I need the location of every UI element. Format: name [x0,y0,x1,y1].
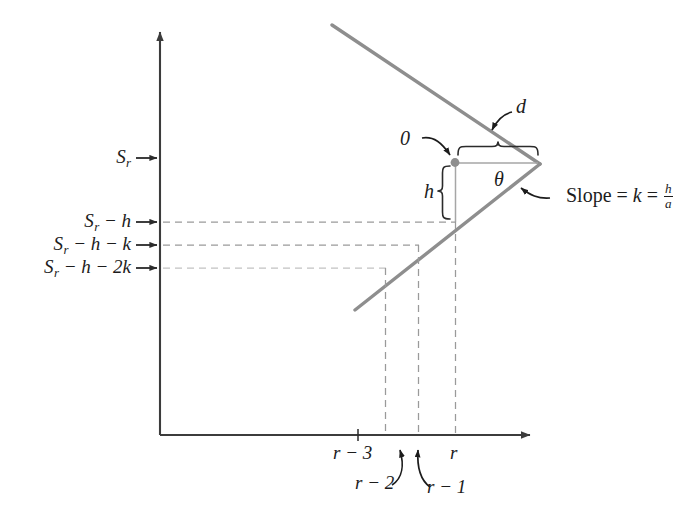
x-tick-label-r-minus-3: r − 3 [333,443,372,462]
annotation-label-d: d [516,96,526,116]
annotation-slope-equation: Slope = k = ha [566,182,673,210]
y-label-arrows [136,158,157,268]
slope-equation-fraction: ha [664,182,673,210]
descending-ramp-line [332,25,540,164]
y-tick-label-sr-h-2k-base: S [44,256,54,277]
ascending-ramp-line [355,164,540,310]
annotation-leaders [422,112,550,198]
slope-fraction-denominator: a [664,197,673,211]
y-tick-label-sr-h-k-base: S [54,233,64,254]
vertical-dashed-guides [386,222,456,433]
annotation-label-zero: 0 [400,128,410,148]
x-tick-label-r: r [450,443,457,462]
signal-lines [332,25,540,310]
y-tick-label-sr-h: Sr − h [84,211,131,234]
slope-fraction-numerator: h [664,182,673,197]
y-tick-label-sr-h-2k: Sr − h − 2k [44,257,131,280]
y-tick-label-sr-h-base: S [84,210,94,231]
x-tick-label-r-minus-2: r − 2 [355,473,394,492]
y-tick-label-sr-h-rest: − h [99,210,131,231]
figure-canvas: Sr Sr − h Sr − h − k Sr − h − 2k r − 3 r… [0,0,680,517]
y-tick-label-sr: Sr [116,147,131,170]
leader-arrow-to-slope [521,188,550,198]
leader-arrow-to-zero-dot [422,138,450,155]
y-tick-label-sr-h-k-rest: − h − k [68,233,131,254]
slope-equation-variable: k [633,184,642,206]
vertex-dot-point-zero [451,158,460,167]
y-tick-label-sr-subscript: r [126,155,131,170]
y-tick-label-sr-h-k: Sr − h − k [54,234,131,257]
axis-group [160,32,530,435]
brace-h-vertical [438,166,450,219]
y-tick-label-sr-base: S [116,146,126,167]
annotation-label-theta: θ [494,169,504,189]
x-tick-label-r-minus-1: r − 1 [427,477,466,496]
leader-arrow-to-d [492,112,512,130]
y-tick-label-sr-h-2k-rest: − h − 2k [59,256,131,277]
x-label-curved-arrows [392,450,430,487]
annotation-label-h: h [424,181,434,201]
horizontal-dashed-guides [163,222,456,268]
slope-equation-equals: = [642,184,663,206]
slope-equation-prefix: Slope = [566,184,633,206]
